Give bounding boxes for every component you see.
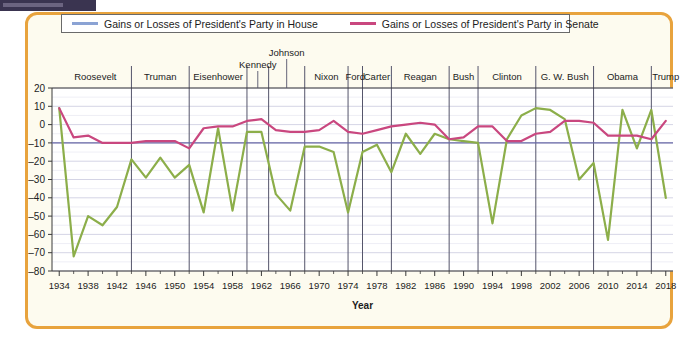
president-label: Trump bbox=[652, 71, 679, 82]
x-axis-tick-label: 1966 bbox=[280, 280, 301, 291]
x-axis-tick-label: 1954 bbox=[193, 280, 214, 291]
president-label: Eisenhower bbox=[193, 71, 243, 82]
x-axis-tick-label: 1978 bbox=[366, 280, 387, 291]
y-axis-tick-label: –70 bbox=[28, 247, 45, 258]
x-axis-tick-label: 1938 bbox=[78, 280, 99, 291]
x-axis-tick-label: 1958 bbox=[222, 280, 243, 291]
y-axis-tick-label: –30 bbox=[28, 174, 45, 185]
y-axis-tick-label: –50 bbox=[28, 211, 45, 222]
president-label: G. W. Bush bbox=[541, 71, 589, 82]
president-label: Roosevelt bbox=[74, 71, 117, 82]
x-axis-tick-label: 1950 bbox=[164, 280, 185, 291]
president-label: Clinton bbox=[492, 71, 522, 82]
x-axis-tick-label: 1962 bbox=[251, 280, 272, 291]
president-label: Reagan bbox=[404, 71, 437, 82]
y-axis-tick-label: –60 bbox=[28, 229, 45, 240]
x-axis-tick-label: 1970 bbox=[309, 280, 330, 291]
chart-svg: 20100–10–20–30–40–50–60–70–8019341938194… bbox=[0, 0, 698, 341]
x-axis-tick-label: 1934 bbox=[49, 280, 70, 291]
x-axis-tick-label: 1974 bbox=[337, 280, 358, 291]
x-axis-tick-label: 2014 bbox=[626, 280, 647, 291]
x-axis-tick-label: 1994 bbox=[482, 280, 503, 291]
president-label: Bush bbox=[453, 71, 475, 82]
y-axis-tick-label: –20 bbox=[28, 156, 45, 167]
y-axis-tick-label: –80 bbox=[28, 266, 45, 277]
president-label: Ford bbox=[346, 71, 366, 82]
president-label: Truman bbox=[144, 71, 176, 82]
x-axis-title: Year bbox=[352, 300, 373, 311]
y-axis-tick-label: 20 bbox=[34, 83, 46, 94]
x-axis-tick-label: 1946 bbox=[135, 280, 156, 291]
president-label: Carter bbox=[364, 71, 390, 82]
x-axis-tick-label: 2010 bbox=[597, 280, 618, 291]
y-axis-tick-label: –40 bbox=[28, 192, 45, 203]
president-label: Kennedy bbox=[239, 59, 277, 70]
president-label: Obama bbox=[607, 71, 639, 82]
x-axis-tick-label: 1942 bbox=[106, 280, 127, 291]
chart-plot-area: 20100–10–20–30–40–50–60–70–8019341938194… bbox=[0, 0, 698, 341]
y-axis-tick-label: –10 bbox=[28, 138, 45, 149]
president-label: Johnson bbox=[269, 47, 305, 58]
x-axis-tick-label: 1986 bbox=[424, 280, 445, 291]
y-axis-tick-label: 10 bbox=[34, 101, 46, 112]
president-label: Nixon bbox=[314, 71, 338, 82]
y-axis-tick-label: 0 bbox=[39, 119, 45, 130]
x-axis-tick-label: 1998 bbox=[511, 280, 532, 291]
x-axis-tick-label: 2006 bbox=[569, 280, 590, 291]
x-axis-tick-label: 1990 bbox=[453, 280, 474, 291]
x-axis-tick-label: 1982 bbox=[395, 280, 416, 291]
x-axis-tick-label: 2002 bbox=[540, 280, 561, 291]
x-axis-tick-label: 2018 bbox=[655, 280, 676, 291]
